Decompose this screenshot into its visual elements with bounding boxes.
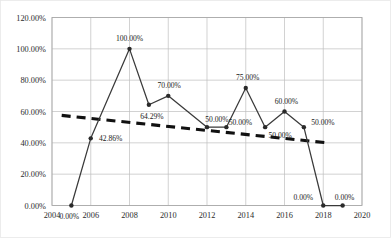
- data-point-label: 75.00%: [236, 73, 260, 82]
- data-point-label: 50.00%: [268, 131, 292, 140]
- data-point-marker: [340, 203, 344, 207]
- data-point-marker: [282, 109, 286, 113]
- y-axis-tick-label: 40.00%: [20, 139, 46, 148]
- data-point-label: 0.00%: [293, 193, 313, 202]
- data-point-marker: [263, 125, 267, 129]
- data-point-label: 42.86%: [99, 134, 123, 143]
- y-axis-tick-label: 100.00%: [16, 45, 46, 54]
- data-point-label: 100.00%: [116, 34, 144, 43]
- x-axis-tick-labels: 200420062008201020122014201620182020: [44, 211, 371, 220]
- x-axis-tick-label: 2012: [199, 211, 216, 220]
- x-axis-tick-label: 2006: [82, 211, 99, 220]
- data-point-label: 50.00%: [205, 115, 229, 124]
- y-axis-tick-label: 80.00%: [20, 76, 46, 85]
- y-axis-tick-label: 120.00%: [16, 14, 46, 23]
- data-point-marker: [244, 86, 248, 90]
- data-point-label: 50.00%: [311, 118, 335, 127]
- x-axis-tick-label: 2018: [315, 211, 332, 220]
- data-point-label: 60.00%: [275, 97, 299, 106]
- line-chart: 120.00%100.00%80.00%60.00%40.00%20.00%0.…: [0, 0, 391, 238]
- x-axis-tick-label: 2014: [237, 211, 254, 220]
- x-axis-tick-label: 2004: [44, 211, 61, 220]
- data-point-label: 0.00%: [60, 212, 80, 221]
- data-point-marker: [321, 203, 325, 207]
- data-point-marker: [127, 47, 131, 51]
- data-point-marker: [147, 103, 151, 107]
- data-point-label: 70.00%: [158, 81, 182, 90]
- x-axis-tick-label: 2020: [354, 211, 371, 220]
- y-axis-tick-label: 60.00%: [20, 108, 46, 117]
- data-point-marker: [205, 125, 209, 129]
- data-point-marker: [69, 203, 73, 207]
- data-point-marker: [302, 125, 306, 129]
- x-axis-tick-label: 2010: [160, 211, 177, 220]
- data-point-label: 64.29%: [140, 112, 164, 121]
- data-point-marker: [166, 94, 170, 98]
- data-point-marker: [89, 136, 93, 140]
- x-axis-tick-label: 2008: [121, 211, 138, 220]
- data-point-label: 0.00%: [335, 193, 355, 202]
- x-axis-tick-label: 2016: [276, 211, 293, 220]
- y-axis-tick-label: 0.00%: [25, 202, 47, 211]
- chart-container: 120.00%100.00%80.00%60.00%40.00%20.00%0.…: [0, 0, 391, 238]
- y-axis-tick-label: 20.00%: [20, 170, 46, 179]
- data-point-label: 50.00%: [229, 118, 253, 127]
